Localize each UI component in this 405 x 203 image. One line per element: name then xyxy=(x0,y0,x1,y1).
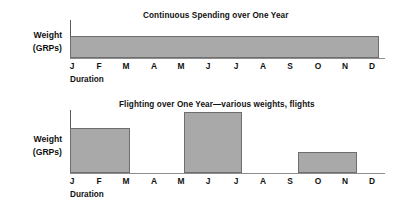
tick-label-month-10: N xyxy=(338,61,352,71)
y-axis-label-line2: (GRPs) xyxy=(0,146,62,159)
tick-label-month-7: A xyxy=(256,176,270,186)
y-axis-label-line1: Weight xyxy=(0,133,62,146)
tick-label-month-11: D xyxy=(365,61,379,71)
tick-label-month-3: A xyxy=(147,61,161,71)
tick-label-month-2: M xyxy=(119,176,133,186)
y-axis-label-flighting: Weight (GRPs) xyxy=(0,133,62,158)
tick-label-month-5: J xyxy=(201,61,215,71)
tick-label-month-6: J xyxy=(229,61,243,71)
tick-label-month-10: N xyxy=(338,176,352,186)
x-axis-label-flighting: Duration xyxy=(70,190,104,199)
tick-label-month-4: M xyxy=(174,176,188,186)
chart-title-continuous: Continuous Spending over One Year xyxy=(143,11,289,20)
chart-title-flighting: Flighting over One Year—various weights,… xyxy=(119,100,315,109)
tick-label-month-8: S xyxy=(283,176,297,186)
chart-continuous-spending: Continuous Spending over One Year Weight… xyxy=(0,0,405,100)
y-axis-label-line1: Weight xyxy=(0,29,62,42)
tick-label-month-9: O xyxy=(311,61,325,71)
chart-flighting: Flighting over One Year—various weights,… xyxy=(0,92,405,203)
bar-flight-2-may-jun xyxy=(184,112,242,173)
tick-label-month-11: D xyxy=(365,176,379,186)
y-axis-label-continuous: Weight (GRPs) xyxy=(0,29,62,54)
tick-label-month-9: O xyxy=(311,176,325,186)
tick-label-month-0: J xyxy=(65,61,79,71)
bar-flight-3-sep-nov xyxy=(298,152,357,173)
bar-continuous-full-year xyxy=(70,36,379,58)
tick-label-month-0: J xyxy=(65,176,79,186)
bar-flight-1-jan-feb xyxy=(70,128,130,173)
tick-label-month-4: M xyxy=(174,61,188,71)
tick-label-month-6: J xyxy=(229,176,243,186)
tick-label-month-1: F xyxy=(92,61,106,71)
tick-label-month-8: S xyxy=(283,61,297,71)
tick-label-month-3: A xyxy=(147,176,161,186)
y-axis-label-line2: (GRPs) xyxy=(0,42,62,55)
tick-label-month-1: F xyxy=(92,176,106,186)
tick-label-month-2: M xyxy=(119,61,133,71)
tick-label-month-7: A xyxy=(256,61,270,71)
x-axis-label-continuous: Duration xyxy=(70,75,104,84)
tick-label-month-5: J xyxy=(201,176,215,186)
